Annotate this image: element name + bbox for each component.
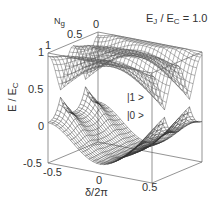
state-1-label: |1 >	[127, 92, 144, 103]
ng-tick-0.5: 0.5	[67, 29, 82, 40]
y-tick-0.5: 0.5	[28, 84, 43, 95]
y-tick-0: 0	[38, 121, 44, 132]
surface-plot	[0, 0, 208, 207]
x-tick-neg0.5: -0.5	[43, 167, 62, 178]
ng-tick-1: 1	[45, 40, 51, 51]
chart-title: EJ / EC = 1.0	[146, 13, 207, 27]
x-tick-0.5: 0.5	[142, 182, 157, 193]
upper-band-surface	[48, 35, 202, 110]
ng-tick-0: 0	[93, 19, 99, 30]
state-0-label: |0 >	[127, 110, 144, 121]
ng-axis-label: Ng	[54, 16, 65, 29]
x-tick-0: 0	[96, 175, 102, 186]
x-axis-label: δ/2π	[85, 187, 108, 198]
y-axis-label: E / EC	[6, 82, 20, 112]
y-tick-1: 1	[38, 47, 44, 58]
y-tick-neg0.5: -0.5	[23, 158, 42, 169]
